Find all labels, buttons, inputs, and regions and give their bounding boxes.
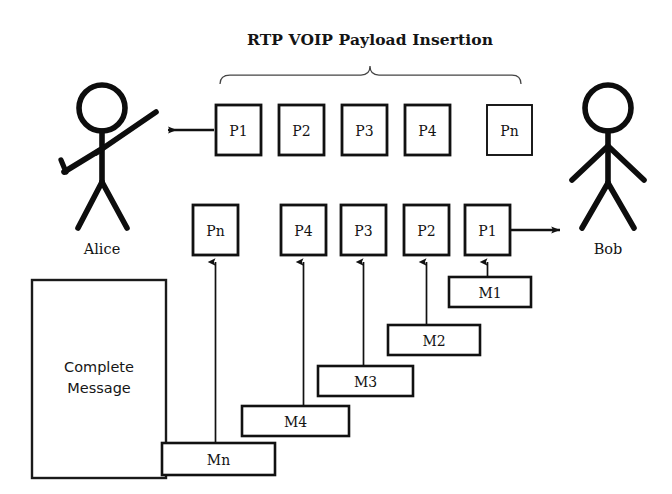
packet-label: P4: [294, 223, 312, 239]
complete-message-box: [32, 280, 166, 478]
packet-label: P2: [417, 223, 435, 239]
diagram-canvas: RTP VOIP Payload Insertion Alice: [0, 0, 672, 494]
insertion-brace: [220, 66, 521, 84]
packet-label: P1: [229, 123, 247, 139]
packet-label: P1: [478, 223, 496, 239]
fragment-label: Mn: [207, 452, 230, 468]
bob-figure: [572, 85, 644, 228]
packet-label: P3: [354, 223, 372, 239]
bottom-row-packets: Pn P4 P3 P2 P1: [193, 205, 510, 255]
diagram-title: RTP VOIP Payload Insertion: [247, 30, 493, 49]
packet-label: P4: [418, 123, 436, 139]
diagram-svg: RTP VOIP Payload Insertion Alice: [0, 0, 672, 494]
complete-message-line1: Complete: [64, 359, 134, 375]
fragment-label: M3: [354, 374, 377, 390]
alice-figure: [61, 85, 156, 228]
bob-label: Bob: [594, 241, 623, 257]
packet-label: P3: [355, 123, 373, 139]
fragment-label: M4: [284, 414, 307, 430]
packet-label: Pn: [500, 123, 518, 139]
packet-label: P2: [292, 123, 310, 139]
packet-label: Pn: [206, 223, 224, 239]
alice-label: Alice: [83, 241, 120, 257]
fragment-label: M2: [422, 333, 445, 349]
complete-message-line2: Message: [67, 380, 131, 396]
fragment-label: M1: [478, 285, 501, 301]
top-row-packets: P1 P2 P3 P4 Pn: [216, 105, 532, 155]
message-fragments: M1 M2 M3 M4 Mn: [162, 277, 531, 475]
